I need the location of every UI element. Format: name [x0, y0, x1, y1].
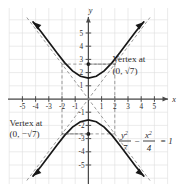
y-tick-4: 4: [80, 43, 84, 51]
y-tick--5: -5: [79, 162, 85, 170]
x-tick-5: 5: [153, 103, 157, 111]
y-tick-5: 5: [80, 30, 84, 38]
x-tick--4: -4: [33, 103, 39, 111]
figure-background: [0, 0, 189, 192]
y-tick--1: -1: [79, 109, 85, 117]
x-tick-1: 1: [100, 103, 104, 111]
equation-denominator-2: 4: [147, 143, 152, 153]
annotation-upper-line1: Vertex at: [113, 54, 146, 64]
annotation-vertex-lower: Vertex at (0, −√7): [10, 118, 43, 140]
y-tick--4: -4: [79, 148, 85, 156]
y-tick-3: 3: [80, 56, 84, 64]
y-tick-1: 1: [80, 82, 84, 90]
x-tick-4: 4: [139, 103, 143, 111]
equation-equals-one: = 1: [160, 136, 173, 146]
equation-denominator-1: 7: [123, 143, 128, 153]
equation-sup-2: 2: [149, 130, 152, 136]
annotation-lower-line1: Vertex at: [10, 118, 43, 128]
annotation-upper-line2: (0, √7): [113, 66, 138, 76]
x-tick-3: 3: [126, 103, 130, 111]
equation-sup-1: 2: [125, 130, 128, 136]
x-axis-label: x: [171, 95, 176, 104]
equation-minus: −: [134, 136, 140, 146]
x-tick--5: -5: [19, 103, 25, 111]
x-tick--3: -3: [46, 103, 52, 111]
annotation-lower-line2: (0, −√7): [10, 129, 40, 139]
hyperbola-figure: -5 -4 -3 -2 -1 1 2 3 4 5 5 4 3 2 1 -1 -2…: [0, 0, 189, 192]
y-tick--3: -3: [79, 135, 85, 143]
y-axis-label: y: [88, 6, 93, 15]
